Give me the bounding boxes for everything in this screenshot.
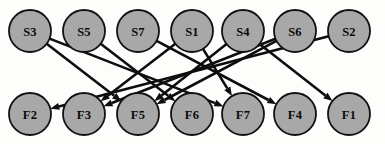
node-label: S1 <box>185 25 199 39</box>
graph-canvas: S3S5S7S1S4S6S2F2F3F5F6F7F4F1 <box>0 0 385 144</box>
sink-node-f2[interactable]: F2 <box>9 93 51 135</box>
node-label: F1 <box>342 108 356 122</box>
sink-node-f3[interactable]: F3 <box>63 93 105 135</box>
source-node-s4[interactable]: S4 <box>222 10 264 52</box>
sink-node-f4[interactable]: F4 <box>274 93 316 135</box>
arrowhead-icon <box>267 97 277 104</box>
node-label: F2 <box>23 108 37 122</box>
node-label: S4 <box>236 25 250 39</box>
node-label: F5 <box>131 108 145 122</box>
source-node-s2[interactable]: S2 <box>328 10 370 52</box>
sink-node-f6[interactable]: F6 <box>171 93 213 135</box>
node-label: F7 <box>236 108 250 122</box>
source-node-s1[interactable]: S1 <box>171 10 213 52</box>
node-label: F4 <box>288 108 303 122</box>
arrowhead-icon <box>50 103 60 110</box>
node-label: S5 <box>77 25 91 39</box>
arrowhead-icon <box>224 87 232 97</box>
node-label: S3 <box>23 25 37 39</box>
arrowhead-icon <box>104 100 114 107</box>
source-node-s5[interactable]: S5 <box>63 10 105 52</box>
node-label: S7 <box>131 25 145 39</box>
source-node-s3[interactable]: S3 <box>9 10 51 52</box>
arrowhead-icon <box>214 100 224 107</box>
source-node-s7[interactable]: S7 <box>117 10 159 52</box>
node-label: S6 <box>288 25 302 39</box>
sink-node-f1[interactable]: F1 <box>328 93 370 135</box>
node-label: F6 <box>185 108 199 122</box>
source-node-s6[interactable]: S6 <box>274 10 316 52</box>
node-label: F3 <box>77 108 91 122</box>
sink-node-f7[interactable]: F7 <box>222 93 264 135</box>
sink-node-f5[interactable]: F5 <box>117 93 159 135</box>
node-label: S2 <box>342 25 356 39</box>
bipartite-graph-diagram: S3S5S7S1S4S6S2F2F3F5F6F7F4F1 <box>0 0 385 144</box>
